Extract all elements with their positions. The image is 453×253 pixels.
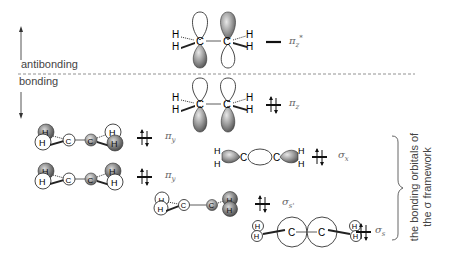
orbital-pi-y-a-drawing: H H C C H H [35, 124, 152, 151]
svg-text:H: H [39, 177, 46, 187]
svg-text:H: H [246, 92, 253, 103]
svg-text:H: H [158, 205, 164, 214]
svg-text:C: C [66, 176, 72, 185]
bonding-label: bonding [19, 75, 58, 87]
svg-text:H: H [353, 232, 358, 241]
svg-text:H: H [246, 104, 253, 115]
svg-text:H: H [254, 232, 259, 241]
mo-label-pi-z-star: πz* [289, 34, 303, 49]
orbital-sigma-s-drawing: H H C C H H [252, 217, 372, 247]
svg-text:C: C [196, 98, 204, 110]
orbital-pi-y-b-drawing: H H C C H H [35, 163, 152, 190]
svg-text:C: C [88, 137, 94, 146]
svg-text:H: H [172, 92, 179, 103]
svg-text:H: H [298, 146, 305, 156]
svg-text:C: C [223, 35, 231, 47]
svg-text:H: H [246, 41, 253, 52]
svg-text:H: H [172, 29, 179, 40]
mo-label-sigma-s: σs [375, 224, 385, 238]
svg-text:H: H [227, 206, 233, 215]
svg-text:C: C [66, 137, 72, 146]
orbital-pi-z-star-drawing: C C H H H H [172, 12, 281, 68]
svg-text:H: H [298, 159, 305, 169]
orbital-sigma-x-drawing: H H C C H H [214, 146, 327, 169]
mo-diagram: C C H H H H C C H H H [0, 0, 453, 253]
electron-pair-sigma-x-icon [312, 148, 327, 166]
energy-down-arrow-icon [19, 92, 23, 119]
electron-pair-pi-y-b-icon [137, 168, 152, 186]
svg-text:C: C [196, 35, 204, 47]
svg-text:C: C [223, 98, 231, 110]
svg-text:H: H [255, 222, 260, 231]
electron-pair-pi-z-icon [266, 96, 281, 114]
orbital-pi-z-drawing: C C H H H H [172, 78, 281, 132]
svg-text:H: H [214, 159, 221, 169]
svg-text:H: H [39, 138, 46, 148]
antibonding-label: antibonding [21, 58, 78, 70]
energy-up-arrow-icon [19, 26, 23, 60]
sigma-framework-annotation: the bonding orbitals of the σ framework [408, 122, 444, 252]
electron-pair-sigma-s-prime-icon [255, 195, 270, 213]
orbital-sigma-s-prime-drawing: H H C C H H [154, 192, 270, 217]
mo-label-pi-y-a: πy [165, 130, 176, 144]
mo-label-sigma-s-prime: σs' [282, 196, 294, 210]
svg-text:H: H [172, 41, 179, 52]
svg-text:H: H [111, 139, 118, 149]
svg-text:H: H [172, 104, 179, 115]
svg-text:H: H [214, 146, 221, 156]
svg-text:C: C [88, 176, 94, 185]
svg-text:C: C [273, 152, 280, 163]
diagram-graphics: C C H H H H C C H H H [0, 0, 453, 253]
svg-text:C: C [181, 201, 187, 210]
svg-text:H: H [111, 178, 118, 188]
svg-text:C: C [288, 227, 295, 238]
electron-pair-pi-y-a-icon [137, 129, 152, 147]
mo-label-pi-z: πz [289, 97, 299, 111]
sigma-framework-brace [392, 136, 403, 240]
svg-text:C: C [209, 201, 215, 210]
svg-text:C: C [240, 152, 247, 163]
mo-label-pi-y-b: πy [165, 169, 176, 183]
svg-text:H: H [246, 29, 253, 40]
svg-text:C: C [318, 227, 325, 238]
svg-text:H: H [352, 222, 357, 231]
mo-label-sigma-x: σx [338, 149, 349, 163]
